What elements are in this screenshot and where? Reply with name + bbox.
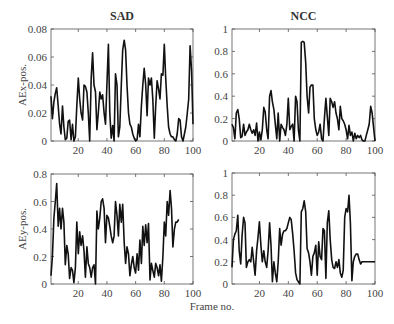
y-tick-label: 0 — [223, 135, 229, 147]
y-axis-label: AEx-pos. — [16, 64, 28, 106]
y-tick-label: 1 — [223, 167, 229, 179]
y-tick-label: 1 — [223, 23, 229, 35]
plot-frame — [232, 29, 375, 141]
y-tick-label: 0 — [42, 278, 48, 290]
data-line — [232, 41, 375, 141]
y-tick-label: 0.8 — [33, 168, 47, 180]
x-tick-label: 80 — [159, 144, 171, 156]
x-tick-label: 20 — [254, 144, 266, 156]
x-tick-label: 60 — [312, 144, 324, 156]
x-tick-label: 40 — [283, 144, 295, 156]
data-line — [232, 195, 375, 284]
y-tick-label: 0.6 — [214, 68, 228, 80]
y-tick-label: 0.4 — [33, 223, 47, 235]
panel-sad-x: 00.020.040.060.0820406080100SADAEx-pos. — [16, 9, 202, 156]
panel-title: SAD — [110, 9, 134, 23]
x-tick-label: 100 — [367, 287, 384, 299]
y-tick-label: 0.2 — [214, 113, 228, 125]
y-tick-label: 0 — [42, 135, 48, 147]
x-tick-label: 20 — [73, 287, 85, 299]
x-axis-label-text: Frame no. — [190, 300, 235, 312]
y-tick-label: 0.4 — [214, 234, 228, 246]
y-tick-label: 0.04 — [28, 79, 48, 91]
data-line — [51, 40, 193, 141]
y-tick-label: 0.6 — [214, 211, 228, 223]
figure-canvas: 00.020.040.060.0820406080100SADAEx-pos.0… — [0, 0, 394, 324]
x-tick-label: 100 — [367, 144, 384, 156]
y-tick-label: 0.8 — [214, 189, 228, 201]
x-tick-label: 60 — [312, 287, 324, 299]
x-tick-label: 80 — [341, 287, 353, 299]
x-tick-label: 40 — [101, 144, 113, 156]
x-tick-label: 40 — [101, 287, 113, 299]
y-tick-label: 0.02 — [28, 107, 47, 119]
x-tick-label: 20 — [254, 287, 266, 299]
panel-ncc-x: 00.20.40.60.8120406080100NCC — [214, 9, 384, 156]
panel-sad-y: 00.20.40.60.820406080100AEy-pos. — [16, 168, 202, 299]
x-tick-label: 100 — [185, 287, 202, 299]
y-tick-label: 0.4 — [214, 90, 228, 102]
x-tick-label: 80 — [159, 287, 171, 299]
y-tick-label: 0.2 — [33, 251, 47, 263]
x-tick-label: 60 — [130, 287, 142, 299]
x-tick-label: 20 — [73, 144, 85, 156]
y-tick-label: 0 — [223, 278, 229, 290]
x-tick-label: 100 — [185, 144, 202, 156]
y-tick-label: 0.2 — [214, 256, 228, 268]
panel-ncc-y: 00.20.40.60.8120406080100 — [214, 167, 384, 299]
y-tick-label: 0.08 — [28, 23, 48, 35]
y-tick-label: 0.06 — [28, 51, 48, 63]
x-tick-label: 60 — [130, 144, 142, 156]
y-axis-label: AEy-pos. — [16, 208, 28, 250]
data-line — [51, 184, 179, 284]
panel-title: NCC — [291, 9, 317, 23]
y-tick-label: 0.6 — [33, 196, 47, 208]
y-tick-label: 0.8 — [214, 45, 228, 57]
x-tick-label: 40 — [283, 287, 295, 299]
x-tick-label: 80 — [341, 144, 353, 156]
